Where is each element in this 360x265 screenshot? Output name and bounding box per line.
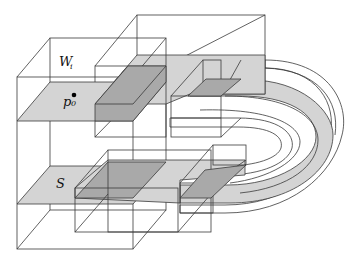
svg-text:0: 0 xyxy=(71,99,76,108)
diagram-canvas: W i p 0 S xyxy=(0,0,360,265)
point-p0 xyxy=(72,93,77,98)
label-S: S xyxy=(56,176,65,191)
label-Wi: W i xyxy=(59,54,74,71)
svg-text:i: i xyxy=(70,62,73,71)
